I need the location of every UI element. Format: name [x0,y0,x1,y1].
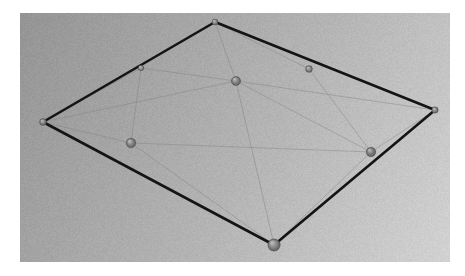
mesh-figure [0,0,465,276]
mesh-canvas [0,0,465,276]
